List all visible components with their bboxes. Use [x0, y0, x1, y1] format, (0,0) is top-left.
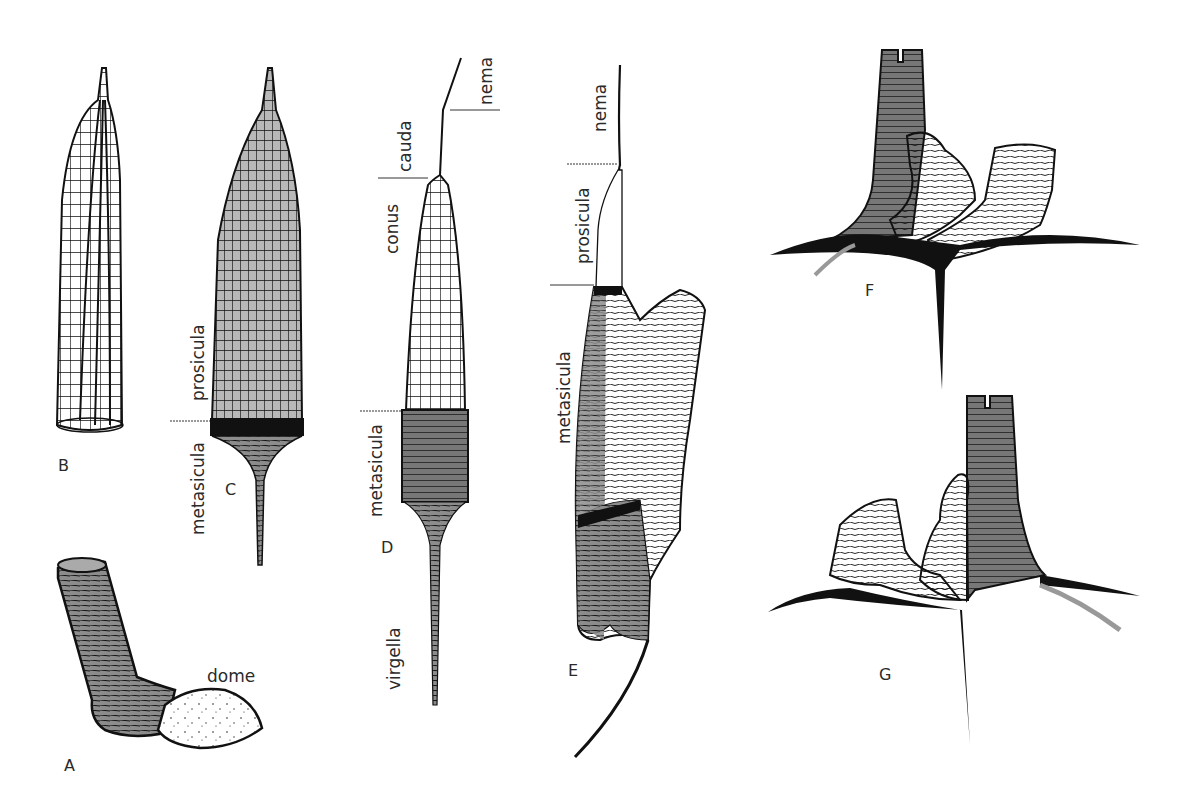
panel-f-drawing [770, 50, 1140, 390]
panel-d-label-virgella: virgella [386, 627, 403, 690]
panel-d-drawing [360, 58, 500, 705]
panel-c-label-prosicula: prosicula [190, 324, 207, 401]
panel-g-letter: G [879, 667, 891, 683]
panel-d-label-cauda: cauda [397, 120, 414, 172]
panel-e-label-nema: nema [592, 84, 609, 132]
panel-e-letter: E [568, 663, 578, 679]
panel-g-drawing [768, 396, 1140, 745]
panel-c-label-metasicula: metasicula [190, 442, 207, 535]
panel-b-letter: B [58, 458, 69, 474]
panel-f-letter: F [865, 283, 874, 299]
panel-a-drawing [58, 558, 262, 748]
panel-a-letter: A [64, 758, 75, 774]
panel-e-label-prosicula: prosicula [575, 187, 592, 264]
panel-b-drawing [57, 68, 123, 432]
panel-d-label-metasicula: metasicula [368, 424, 385, 517]
panel-d-label-nema: nema [478, 57, 495, 105]
panel-d-letter: D [381, 540, 393, 556]
panel-c-letter: C [225, 482, 236, 498]
panel-d-label-conus: conus [384, 204, 401, 254]
panel-a-label-dome: dome [207, 668, 255, 685]
panel-e-label-metasicula: metasicula [556, 351, 573, 444]
